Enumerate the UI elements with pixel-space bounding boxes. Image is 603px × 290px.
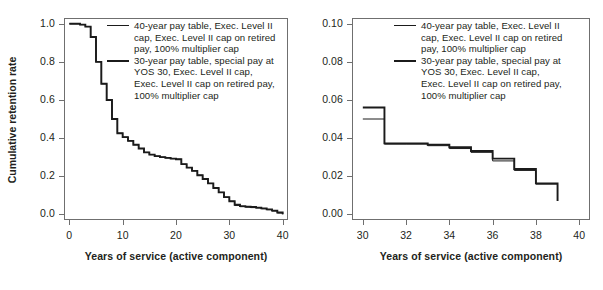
y-tick-label: 0.08 xyxy=(303,55,343,67)
legend-entry: 40-year pay table, Exec. Level IIcap, Ex… xyxy=(107,20,282,55)
x-tick-label: 40 xyxy=(263,229,303,241)
y-tick-mark xyxy=(347,176,352,177)
legend-line-swatch-thin xyxy=(107,20,129,32)
x-tick-mark xyxy=(579,220,580,225)
x-tick-mark xyxy=(229,220,230,225)
y-tick-mark xyxy=(59,100,64,101)
y-tick-label: 1.0 xyxy=(15,17,55,29)
legend-right: 40-year pay table, Exec. Level IIcap, Ex… xyxy=(394,20,576,101)
legend-text-line: cap, Exec. Level II cap on retired xyxy=(134,32,282,44)
y-tick-label: 0.8 xyxy=(15,55,55,67)
y-tick-label: 0.10 xyxy=(303,17,343,29)
x-axis-title-right: Years of service (active component) xyxy=(352,250,590,262)
y-tick-mark xyxy=(59,176,64,177)
legend-line-swatch-thick xyxy=(394,55,416,67)
legend-text-line: pay, 100% multiplier cap xyxy=(421,43,576,55)
legend-text-line: 40-year pay table, Exec. Level II xyxy=(421,20,576,32)
legend-text-line: Exec. Level II cap on retired pay, xyxy=(134,78,282,90)
legend-line-swatch-thin xyxy=(394,20,416,32)
legend-text-line: pay, 100% multiplier cap xyxy=(134,43,282,55)
x-tick-mark xyxy=(283,220,284,225)
legend-text-line: 40-year pay table, Exec. Level II xyxy=(134,20,282,32)
y-axis-title-left: Cumulative retention rate xyxy=(6,18,18,222)
legend-entry: 30-year pay table, special pay atYOS 30,… xyxy=(394,55,576,101)
legend-text-line: cap, Exec. Level II cap on retired xyxy=(421,32,576,44)
figure-container: Cumulative retention rate 0.00.20.40.60.… xyxy=(0,0,603,290)
y-tick-label: 0.6 xyxy=(15,93,55,105)
legend-entry-text: 40-year pay table, Exec. Level IIcap, Ex… xyxy=(134,20,282,55)
legend-text-line: 100% multiplier cap xyxy=(134,90,282,102)
y-tick-mark xyxy=(59,214,64,215)
legend-entry-text: 30-year pay table, special pay atYOS 30,… xyxy=(134,55,282,101)
legend-text-line: Exec. Level II cap on retired pay, xyxy=(421,78,576,90)
y-tick-mark xyxy=(347,214,352,215)
x-tick-mark xyxy=(123,220,124,225)
y-tick-label: 0.2 xyxy=(15,169,55,181)
y-tick-mark xyxy=(59,24,64,25)
series-line-thick xyxy=(363,108,558,201)
x-axis-title-left: Years of service (active component) xyxy=(64,250,288,262)
x-tick-label: 20 xyxy=(156,229,196,241)
x-tick-label: 38 xyxy=(516,229,556,241)
legend-text-line: 30-year pay table, special pay at xyxy=(421,55,576,67)
x-tick-label: 30 xyxy=(209,229,249,241)
x-tick-mark xyxy=(69,220,70,225)
y-tick-label: 0.04 xyxy=(303,131,343,143)
y-tick-label: 0.4 xyxy=(15,131,55,143)
y-tick-label: 0.0 xyxy=(15,207,55,219)
series-line-thin xyxy=(363,119,558,201)
y-tick-label: 0.00 xyxy=(303,207,343,219)
x-tick-label: 36 xyxy=(473,229,513,241)
x-tick-mark xyxy=(536,220,537,225)
legend-text-line: 30-year pay table, special pay at xyxy=(134,55,282,67)
y-tick-mark xyxy=(59,138,64,139)
y-tick-mark xyxy=(347,62,352,63)
x-tick-mark xyxy=(449,220,450,225)
x-tick-label: 10 xyxy=(103,229,143,241)
legend-left: 40-year pay table, Exec. Level IIcap, Ex… xyxy=(107,20,282,101)
x-tick-mark xyxy=(363,220,364,225)
legend-line-swatch-thick xyxy=(107,55,129,67)
y-tick-label: 0.02 xyxy=(303,169,343,181)
x-tick-label: 32 xyxy=(386,229,426,241)
x-tick-label: 40 xyxy=(559,229,599,241)
y-tick-mark xyxy=(59,62,64,63)
y-tick-label: 0.06 xyxy=(303,93,343,105)
legend-entry: 30-year pay table, special pay atYOS 30,… xyxy=(107,55,282,101)
y-tick-mark xyxy=(347,100,352,101)
legend-entry-text: 40-year pay table, Exec. Level IIcap, Ex… xyxy=(421,20,576,55)
legend-entry: 40-year pay table, Exec. Level IIcap, Ex… xyxy=(394,20,576,55)
legend-text-line: YOS 30, Exec. Level II cap, xyxy=(421,66,576,78)
legend-text-line: YOS 30, Exec. Level II cap, xyxy=(134,66,282,78)
x-tick-label: 34 xyxy=(429,229,469,241)
legend-entry-text: 30-year pay table, special pay atYOS 30,… xyxy=(421,55,576,101)
x-tick-label: 30 xyxy=(343,229,383,241)
chart-panel-right: 0.000.020.040.060.080.10 303234363840 Ye… xyxy=(302,0,603,290)
x-tick-mark xyxy=(176,220,177,225)
x-tick-label: 0 xyxy=(49,229,89,241)
y-tick-mark xyxy=(347,138,352,139)
chart-panel-left: Cumulative retention rate 0.00.20.40.60.… xyxy=(0,0,301,290)
x-tick-mark xyxy=(406,220,407,225)
x-tick-mark xyxy=(493,220,494,225)
y-tick-mark xyxy=(347,24,352,25)
legend-text-line: 100% multiplier cap xyxy=(421,90,576,102)
